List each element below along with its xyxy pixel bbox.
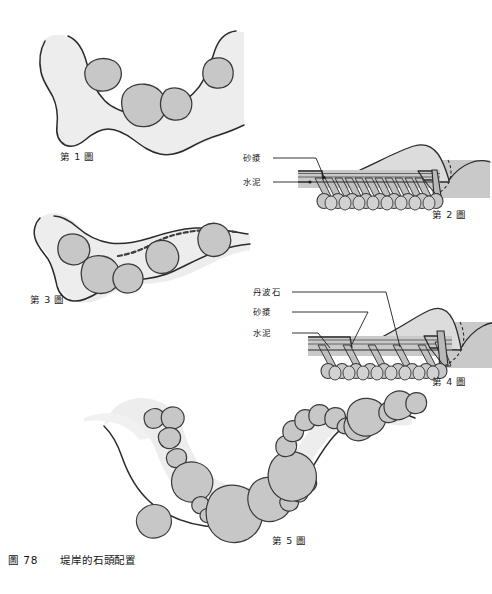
fig5-stone <box>158 428 180 449</box>
fig1-stone <box>203 58 233 88</box>
fig3-stone <box>146 240 179 273</box>
fig1-stone <box>122 84 166 127</box>
fig4-annotation-tanba-stone: 丹波石 <box>253 287 281 297</box>
fig4-footing-stones <box>321 364 447 381</box>
fig1-stone <box>160 88 191 120</box>
fig5-stone <box>161 407 184 429</box>
fig4-annotation-cement: 水泥 <box>253 328 272 338</box>
fig1-stone <box>85 59 122 92</box>
plate-caption-title: 堤岸的石頭配置 <box>60 554 136 566</box>
fig3-label: 第 3 圖 <box>30 294 65 305</box>
fig5-stone <box>406 393 427 414</box>
fig4-label: 第 4 圖 <box>432 376 467 387</box>
fig3-stone <box>198 223 231 256</box>
fig2-leader-cement-dot <box>308 180 311 183</box>
fig4-annotation-mortar: 砂漿 <box>253 307 272 317</box>
plate-caption-number: 圖 78 <box>8 554 38 566</box>
fig2-footing-stones <box>317 194 443 211</box>
fig2-label: 第 2 圖 <box>432 209 467 220</box>
fig2-annotation-cement: 水泥 <box>243 177 262 187</box>
fig3-stone <box>113 264 143 293</box>
plate-caption: 圖 78 堤岸的石頭配置 <box>8 554 136 566</box>
fig5-label: 第 5 圖 <box>272 535 307 546</box>
fig5-stone <box>136 505 171 539</box>
fig1-label: 第 1 圖 <box>60 151 95 162</box>
fig5-stone <box>172 462 213 502</box>
figure-plate: 第 1 圖 <box>0 0 492 594</box>
fig2-annotation-mortar: 砂漿 <box>243 153 262 163</box>
fig2-leader-mortar-dot <box>322 176 325 179</box>
fig5-stone <box>268 452 316 502</box>
